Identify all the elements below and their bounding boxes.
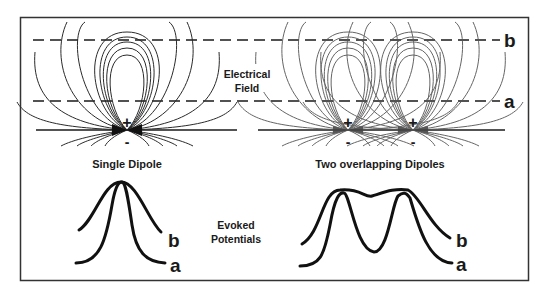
- single-dipole-title: Single Dipole: [92, 158, 162, 170]
- evoked-label-line1: Evoked: [217, 219, 254, 231]
- curve-b-label-double: b: [456, 230, 468, 251]
- curve-a-single: [76, 182, 165, 263]
- curve-a-label-single: a: [170, 255, 181, 276]
- level-a-label: a: [504, 91, 515, 112]
- single-dipole-potentials: [76, 182, 165, 263]
- plus-sign-dipole-1: +: [343, 114, 352, 131]
- curve-a-double: [300, 193, 452, 266]
- electrical-field-label-line2: Field: [235, 82, 260, 94]
- minus-sign-dipole-2: -: [411, 134, 416, 150]
- level-b-label: b: [504, 30, 516, 51]
- electrical-field-label-line1: Electrical: [224, 68, 271, 80]
- plus-sign-dipole-2: +: [408, 114, 417, 131]
- curve-b-label-single: b: [168, 230, 180, 251]
- plus-sign-single: +: [122, 114, 131, 131]
- curve-b-double: [302, 189, 450, 244]
- two-dipoles-potentials: [300, 189, 452, 266]
- two-dipoles-title: Two overlapping Dipoles: [315, 158, 444, 170]
- evoked-label-line2: Potentials: [211, 233, 261, 245]
- minus-sign-single: -: [125, 134, 130, 150]
- figure-frame: [21, 18, 529, 281]
- curve-b-single: [79, 182, 161, 232]
- minus-sign-dipole-1: -: [346, 134, 351, 150]
- dipole-diagram: + - + - + - Electrical Field b a Single …: [0, 0, 547, 291]
- curve-a-label-double: a: [456, 254, 467, 275]
